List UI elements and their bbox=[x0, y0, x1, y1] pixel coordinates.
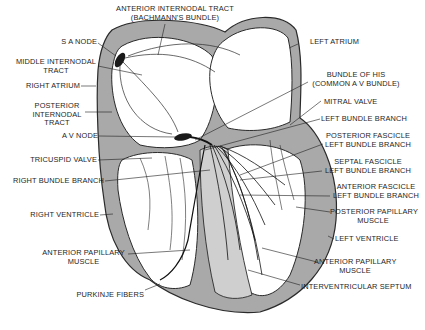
label-right-atrium: RIGHT ATRIUM bbox=[10, 82, 80, 91]
label-right-bundle-branch: RIGHT BUNDLE BRANCH bbox=[5, 177, 104, 186]
label-posterior-papillary-muscle: POSTERIOR PAPILLARY MUSCLE bbox=[330, 208, 416, 225]
label-av-node: A V NODE bbox=[40, 132, 98, 141]
label-sa-node: S A NODE bbox=[40, 38, 97, 47]
left-atrium-cavity bbox=[210, 28, 292, 131]
right-atrium-cavity bbox=[112, 37, 217, 147]
label-posterior-internodal-tract: POSTERIOR INTERNODAL TRACT bbox=[30, 102, 84, 128]
label-interventricular-septum: INTERVENTRICULAR SEPTUM bbox=[301, 283, 412, 292]
label-purkinje-fibers: PURKINJE FIBERS bbox=[60, 291, 144, 300]
label-anterior-fascicle: ANTERIOR FASCICLE LEFT BUNDLE BRANCH bbox=[330, 183, 422, 200]
label-bundle-of-his: BUNDLE OF HIS (COMMON A V BUNDLE) bbox=[306, 71, 406, 88]
label-right-ventricle: RIGHT VENTRICLE bbox=[20, 211, 99, 220]
label-left-atrium: LEFT ATRIUM bbox=[310, 38, 359, 47]
label-left-ventricle: LEFT VENTRICLE bbox=[335, 235, 399, 244]
label-tricuspid-valve: TRICUSPID VALVE bbox=[20, 156, 97, 165]
label-septal-fascicle: SEPTAL FASCICLE LEFT BUNDLE BRANCH bbox=[322, 158, 414, 175]
label-posterior-fascicle: POSTERIOR FASCICLE LEFT BUNDLE BRANCH bbox=[322, 132, 414, 149]
label-left-bundle-branch: LEFT BUNDLE BRANCH bbox=[321, 115, 407, 124]
label-middle-internodal-tract: MIDDLE INTERNODAL TRACT bbox=[14, 58, 98, 75]
label-anterior-papillary-muscle-right: ANTERIOR PAPILLARY MUSCLE bbox=[40, 249, 127, 266]
label-mitral-valve: MITRAL VALVE bbox=[324, 98, 377, 107]
label-anterior-papillary-muscle-left: ANTERIOR PAPILLARY MUSCLE bbox=[314, 258, 396, 275]
label-anterior-internodal-tract: ANTERIOR INTERNODAL TRACT (BACHMANN'S BU… bbox=[110, 5, 240, 22]
